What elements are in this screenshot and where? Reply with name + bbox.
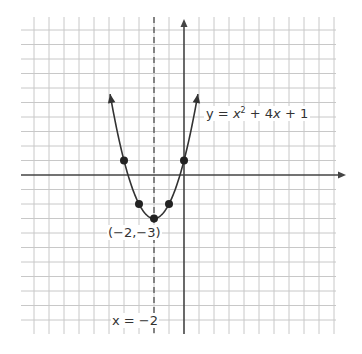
data-point [120,157,128,165]
parabola-graph [0,0,362,354]
coordinate-axes [21,19,346,334]
equation-label: y = x2 + 4x + 1 [204,106,310,121]
axis-of-symmetry-label: x = −2 [111,313,159,328]
data-point [165,200,173,208]
data-point [150,215,158,223]
vertex-label: (−2,−3) [107,225,162,240]
data-point [135,200,143,208]
data-point [180,157,188,165]
